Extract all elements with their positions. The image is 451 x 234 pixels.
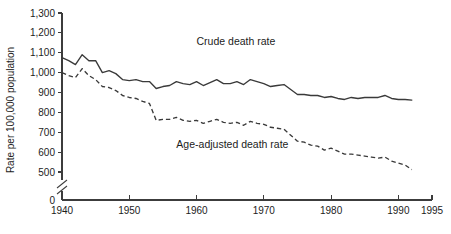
- x-tick-label: 1995: [421, 205, 444, 216]
- x-tick-label: 1980: [320, 205, 343, 216]
- death-rate-line-chart: 5006007008009001,0001,1001,2001,3000 194…: [0, 0, 451, 234]
- x-axis: 1940195019601970198019901995: [51, 195, 444, 216]
- y-tick-label-zero: 0: [49, 195, 55, 206]
- x-tick-label: 1990: [387, 205, 410, 216]
- y-tick-label: 600: [38, 147, 55, 158]
- chart-container: 5006007008009001,0001,1001,2001,3000 194…: [0, 0, 451, 234]
- series-label-crude: Crude death rate: [197, 35, 276, 47]
- y-tick-label: 1,300: [30, 8, 55, 19]
- series-label-age-adjusted: Age-adjusted death rate: [176, 138, 288, 150]
- y-tick-label: 500: [38, 167, 55, 178]
- x-tick-label: 1950: [118, 205, 141, 216]
- y-tick-label: 900: [38, 87, 55, 98]
- y-axis-title: Rate per 100,000 population: [5, 47, 16, 173]
- series-line-dashed: [62, 69, 412, 170]
- y-axis: 5006007008009001,0001,1001,2001,3000: [30, 8, 67, 206]
- y-tick-label: 1,200: [30, 27, 55, 38]
- y-tick-label: 700: [38, 127, 55, 138]
- series-line-solid: [62, 55, 412, 100]
- x-tick-label: 1960: [185, 205, 208, 216]
- series-annotations: Crude death rateAge-adjusted death rate: [176, 35, 288, 150]
- y-tick-label: 1,000: [30, 67, 55, 78]
- y-tick-label: 800: [38, 107, 55, 118]
- series-lines: [62, 55, 412, 170]
- x-tick-label: 1940: [51, 205, 74, 216]
- y-tick-label: 1,100: [30, 47, 55, 58]
- x-tick-label: 1970: [253, 205, 276, 216]
